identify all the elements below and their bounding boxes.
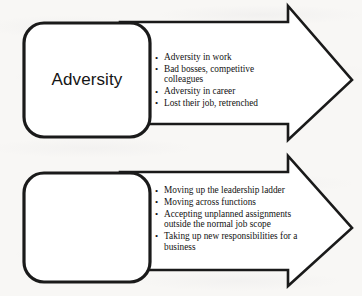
bullet-list-diversity: Moving up the leadership ladder Moving a… xyxy=(158,185,300,253)
list-item: Moving across functions xyxy=(158,197,300,208)
list-item: Taking up new responsibilities for a bus… xyxy=(158,231,300,252)
list-item: Lost their job, retrenched xyxy=(158,98,282,109)
list-item: Bad bosses, competitive colleagues xyxy=(158,64,282,85)
list-item: Moving up the leadership ladder xyxy=(158,185,300,196)
diagram-canvas: Adversity Adversity in work Bad bosses, … xyxy=(0,0,362,296)
label-box-adversity: Adversity xyxy=(24,23,150,137)
block-label: Adversity xyxy=(52,70,123,90)
label-box-rect xyxy=(24,173,150,282)
list-item: Accepting unplanned assignments outside … xyxy=(158,209,300,230)
bullet-list-adversity: Adversity in work Bad bosses, competitiv… xyxy=(158,52,282,110)
diagram-block-adversity[interactable]: Adversity Adversity in work Bad bosses, … xyxy=(0,0,362,150)
list-item: Adversity in career xyxy=(158,86,282,97)
list-item: Adversity in work xyxy=(158,52,282,63)
